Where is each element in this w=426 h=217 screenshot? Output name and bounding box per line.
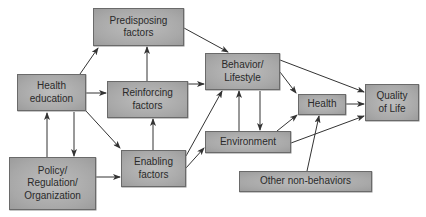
arrow-environment-to-health bbox=[277, 115, 297, 131]
arrow-predisposing-to-behavior bbox=[184, 28, 228, 52]
arrow-healthed-to-predisposing bbox=[80, 48, 98, 74]
node-environment: Environment bbox=[205, 131, 291, 153]
node-reinforcing-factors: Reinforcing factors bbox=[107, 81, 188, 118]
arrow-environment-to-quality bbox=[291, 116, 364, 143]
arrow-behavior-to-health bbox=[280, 72, 296, 93]
node-label: Behavior/ Lifestyle bbox=[221, 59, 263, 84]
node-label: Predisposing factors bbox=[110, 15, 168, 40]
node-predisposing-factors: Predisposing factors bbox=[93, 8, 184, 46]
node-enabling-factors: Enabling factors bbox=[121, 150, 186, 187]
node-label: Health bbox=[308, 98, 337, 111]
node-policy-regulation-organization: Policy/ Regulation/ Organization bbox=[9, 157, 96, 210]
node-health-education: Health education bbox=[17, 74, 86, 111]
arrow-other-to-health bbox=[307, 116, 319, 171]
node-label: Enabling factors bbox=[134, 156, 173, 181]
node-label: Health education bbox=[30, 80, 73, 105]
node-behavior-lifestyle: Behavior/ Lifestyle bbox=[205, 53, 280, 90]
node-label: Reinforcing factors bbox=[122, 87, 173, 112]
node-quality-of-life: Quality of Life bbox=[365, 84, 419, 121]
precede-proceed-diagram: Predisposing factors Health education Re… bbox=[0, 0, 426, 217]
node-label: Quality of Life bbox=[376, 90, 407, 115]
node-other-non-behaviors: Other non-behaviors bbox=[239, 171, 372, 192]
node-health: Health bbox=[298, 94, 346, 115]
node-label: Other non-behaviors bbox=[260, 175, 351, 188]
node-label: Environment bbox=[220, 136, 276, 149]
node-label: Policy/ Regulation/ Organization bbox=[24, 165, 81, 203]
arrow-behavior-to-quality bbox=[280, 60, 364, 92]
